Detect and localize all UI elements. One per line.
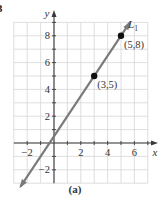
x-tick-label: 6: [132, 147, 137, 158]
y-tick-label: 8: [45, 30, 50, 41]
chart-canvas: −2246−22468xyL1(3,5)(5,8)(a): [0, 0, 164, 199]
y-tick-label: −2: [39, 164, 50, 175]
x-axis-arrow-icon: [151, 141, 158, 146]
line-label-l1: L1: [127, 18, 138, 33]
y-axis-label: y: [44, 7, 50, 19]
x-tick-label: −2: [22, 147, 33, 158]
x-axis-label: x: [152, 146, 158, 158]
y-tick-label: 6: [45, 57, 50, 68]
y-tick-label: 4: [45, 84, 51, 95]
figure-number-label: 3: [0, 2, 3, 14]
data-point-label: (5,8): [124, 39, 145, 51]
y-axis-arrow-icon: [52, 10, 57, 17]
axis-labels: −2246−22468xyL1(3,5)(5,8)(a): [22, 7, 158, 196]
x-tick-label: 2: [78, 147, 83, 158]
line-l1-path: [21, 23, 130, 187]
figure-caption: (a): [69, 183, 82, 196]
x-tick-label: 4: [105, 147, 111, 158]
y-tick-label: 2: [45, 111, 50, 122]
line-l1: [19, 21, 130, 188]
data-point-label: (3,5): [97, 79, 118, 91]
